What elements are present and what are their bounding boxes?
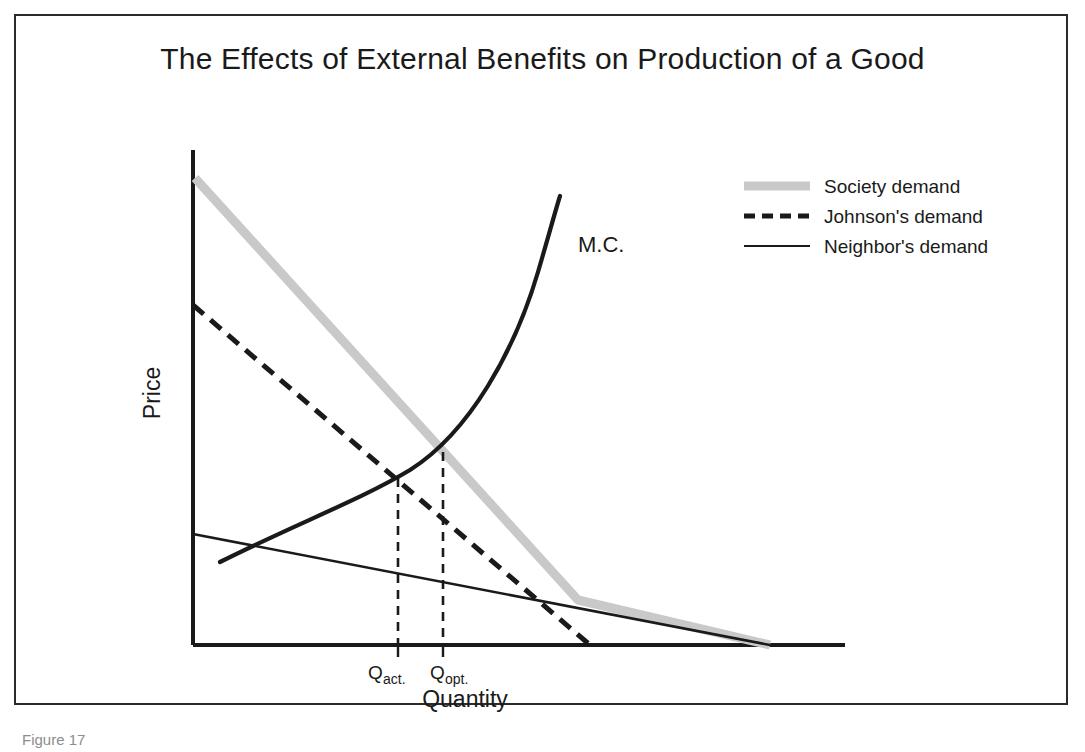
q-opt-marker-group: Q opt. (430, 452, 468, 687)
q-opt-label: Q (430, 662, 445, 683)
legend: Society demand Johnson's demand Neighbor… (744, 176, 988, 257)
legend-label-johnsons-demand: Johnson's demand (824, 206, 983, 227)
axes-group (193, 150, 845, 645)
q-opt-sublabel: opt. (445, 671, 468, 687)
legend-item-society-demand: Society demand (744, 176, 960, 197)
legend-item-johnsons-demand: Johnson's demand (744, 206, 983, 227)
q-act-label: Q (368, 662, 383, 683)
legend-item-neighbors-demand: Neighbor's demand (744, 236, 988, 257)
series-society-demand (195, 178, 770, 645)
mc-curve-label: M.C. (578, 232, 624, 257)
series-johnsons-demand (193, 305, 590, 645)
x-axis-label: Quantity (422, 686, 508, 712)
q-act-marker-group: Q act. (368, 478, 406, 687)
y-axis-label: Price (139, 367, 165, 419)
chart-plot-area: M.C. Q act. Q opt. Quantity Price Societ… (0, 0, 1085, 752)
figure-caption: Figure 17 (22, 731, 242, 752)
q-act-sublabel: act. (383, 671, 406, 687)
legend-label-society-demand: Society demand (824, 176, 960, 197)
legend-label-neighbors-demand: Neighbor's demand (824, 236, 988, 257)
series-marginal-cost-curve (220, 196, 560, 562)
figure-root: The Effects of External Benefits on Prod… (0, 0, 1085, 752)
